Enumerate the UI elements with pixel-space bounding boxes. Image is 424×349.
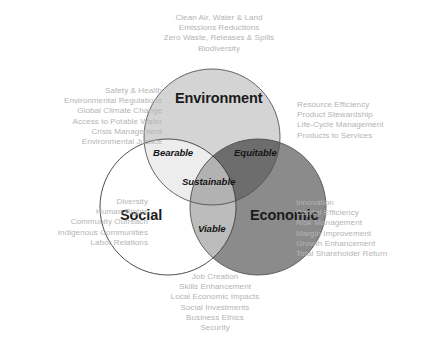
annotation-line: Access to Potable Water [14,117,162,127]
annotation-line: Life-Cycle Management [297,120,421,130]
annotation-line: Emissions Reductions [152,23,286,33]
annotation-line: Capital Efficiency [296,208,423,218]
annotation-line: Safety & Health [14,86,162,96]
annotation-line: Indigenous Communities [4,228,148,238]
annotation-environment-top: Clean Air, Water & LandEmissions Reducti… [152,13,286,54]
annotation-line: Products to Services [297,131,421,141]
annotation-line: Resource Efficiency [297,100,421,110]
annotation-line: Margin Improvement [296,229,423,239]
annotation-line: Business Ethics [140,313,290,323]
annotation-line: Human Rights [4,207,148,217]
annotation-line: Crisis Management [14,127,162,137]
annotation-line: Global Climate Change [14,106,162,116]
annotation-social-left: DiversityHuman RightsCommunity OutreachI… [4,197,148,248]
annotation-line: Job Creation [140,272,290,282]
annotation-line: Social Investments [140,303,290,313]
annotation-line: Community Outreach [4,217,148,227]
annotation-economic-right: InnovationCapital EfficiencyRisk Managem… [296,198,423,259]
circle-label-environment: Environment [175,90,263,106]
annotation-line: Biodiversity [152,44,286,54]
annotation-environment-social-left: Safety & HealthEnvironmental Regulations… [14,86,162,147]
annotation-line: Security [140,323,290,333]
annotation-environment-economic-right: Resource EfficiencyProduct StewardshipLi… [297,100,421,141]
annotation-social-economic-bottom: Job CreationSkills EnhancementLocal Econ… [140,272,290,333]
annotation-line: Risk Management [296,218,423,228]
intersection-label-equitable: Equitable [234,147,277,158]
annotation-line: Diversity [4,197,148,207]
intersection-label-sustainable: Sustainable [182,176,235,187]
annotation-line: Labor Relations [4,238,148,248]
sustainability-venn-diagram: Environment Social Economic Bearable Equ… [0,0,424,349]
annotation-line: Local Economic Impacts [140,292,290,302]
annotation-line: Innovation [296,198,423,208]
annotation-line: Product Stewardship [297,110,421,120]
annotation-line: Environmental Justice [14,137,162,147]
annotation-line: Skills Enhancement [140,282,290,292]
annotation-line: Growth Enhancement [296,239,423,249]
intersection-label-bearable: Bearable [153,147,193,158]
intersection-label-viable: Viable [198,223,226,234]
annotation-line: Total Shareholder Return [296,249,423,259]
annotation-line: Clean Air, Water & Land [152,13,286,23]
annotation-line: Environmental Regulations [14,96,162,106]
annotation-line: Zero Waste, Releases & Spills [152,33,286,43]
